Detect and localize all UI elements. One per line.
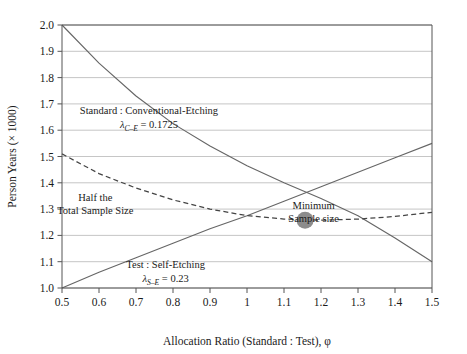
y-tick-label: 1.8 [40, 72, 55, 84]
annotation-line-1: Standard : Conventional-Etching [80, 105, 219, 116]
y-tick-label: 1.0 [40, 282, 55, 294]
annotation-half-total-sample-size: Half theTotal Sample Size [57, 192, 134, 216]
y-tick-label: 1.5 [40, 151, 55, 163]
x-tick-label: 0.8 [166, 296, 181, 308]
x-axis-title: Allocation Ratio (Standard : Test), φ [163, 335, 331, 348]
y-tick-label: 1.3 [40, 203, 55, 215]
chart-figure: 1.01.11.21.31.41.51.61.71.81.92.00.50.60… [0, 0, 467, 354]
x-tick-label: 0.7 [129, 296, 144, 308]
y-tick-label: 1.2 [40, 229, 55, 241]
series-line-0 [62, 25, 432, 262]
chart-svg: 1.01.11.21.31.41.51.61.71.81.92.00.50.60… [0, 0, 467, 354]
gridlines [62, 25, 432, 288]
annotation-lambda: λC–E = 0.1725 [119, 119, 178, 133]
x-tick-label: 0.6 [92, 296, 107, 308]
annotation-lambda: λS–E = 0.23 [141, 273, 188, 287]
y-axis-title: Person Years (× 1000) [6, 105, 19, 207]
annotation-line-1: Minimum [293, 200, 335, 211]
annotation-test-self-etching: Test : Self-EtchingλS–E = 0.23 [126, 259, 205, 287]
x-tick-label: 1.1 [277, 296, 292, 308]
y-tick-label: 1.1 [40, 256, 55, 268]
y-tick-label: 1.9 [40, 45, 55, 57]
annotation-line-2: Sample size [288, 213, 339, 224]
annotation-line-1: Test : Self-Etching [126, 259, 205, 270]
y-axis-ticks: 1.01.11.21.31.41.51.61.71.81.92.0 [40, 19, 62, 294]
annotation-line-2: Total Sample Size [57, 205, 134, 216]
y-tick-label: 1.7 [40, 98, 55, 110]
x-tick-label: 1.5 [425, 296, 440, 308]
x-tick-label: 1.4 [388, 296, 403, 308]
x-tick-label: 1 [244, 296, 250, 308]
y-tick-label: 1.6 [40, 124, 55, 136]
x-tick-label: 1.3 [351, 296, 366, 308]
annotation-standard-conventional-etching: Standard : Conventional-EtchingλC–E = 0.… [80, 105, 219, 133]
x-tick-label: 1.2 [314, 296, 329, 308]
x-axis-ticks: 0.50.60.70.80.911.11.21.31.41.5 [55, 288, 440, 308]
annotation-minimum-sample-size: MinimumSample size [288, 200, 339, 224]
annotation-line-1: Half the [78, 192, 112, 203]
y-tick-label: 2.0 [40, 19, 55, 31]
x-tick-label: 0.5 [55, 296, 70, 308]
x-tick-label: 0.9 [203, 296, 218, 308]
y-tick-label: 1.4 [40, 177, 55, 189]
